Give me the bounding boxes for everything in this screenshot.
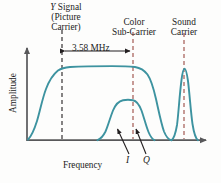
label-signal-word: Signal — [56, 2, 82, 12]
leader-line-i — [118, 129, 130, 154]
label-y-signal-picture-carrier: Y Signal (Picture Carrier) — [38, 2, 94, 32]
leader-line-q — [136, 129, 146, 154]
curve-sound-carrier — [172, 69, 199, 141]
label-sound-line1: Sound — [160, 17, 208, 27]
label-color-line1: Color — [106, 17, 162, 27]
label-q-component: Q — [143, 155, 150, 165]
label-color-sub-carrier: Color Sub-Carrier — [106, 17, 162, 37]
tv-spectrum-figure: Y Signal (Picture Carrier) Color Sub-Car… — [0, 0, 221, 183]
label-y-signal-line3: Carrier) — [38, 22, 94, 32]
label-y-axis-title: Amplitude — [8, 59, 18, 127]
label-y-signal-line1: Y Signal — [38, 2, 94, 12]
label-sound-carrier: Sound Carrier — [160, 17, 208, 37]
label-y-signal-line2: (Picture — [38, 12, 94, 22]
curve-luminance-y — [28, 66, 171, 140]
label-color-line2: Sub-Carrier — [106, 27, 162, 37]
label-x-axis-title: Frequency — [63, 160, 102, 170]
label-i-component: I — [126, 155, 129, 165]
label-sound-line2: Carrier — [160, 27, 208, 37]
label-bandwidth: 3.58 MHz — [72, 43, 110, 53]
curve-chroma-subcarrier — [98, 100, 155, 140]
